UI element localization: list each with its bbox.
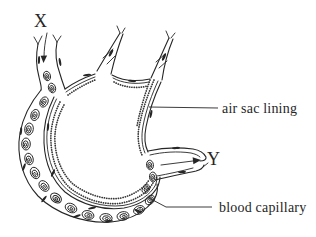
alveolus-diagram: X Y air sac lining blood capillary <box>0 0 316 237</box>
air-sac-lining-leader-line <box>149 107 218 108</box>
red-blood-cell <box>149 172 157 183</box>
x-marker-label: X <box>34 11 47 31</box>
red-blood-cell <box>28 166 41 181</box>
duct-stub-right <box>151 31 175 80</box>
blood-capillary-leader-line <box>149 198 212 207</box>
x-arrowhead-icon <box>41 55 48 63</box>
red-blood-cell <box>49 191 64 205</box>
red-blood-cell <box>146 160 154 170</box>
red-blood-cell <box>24 122 34 135</box>
red-blood-cell <box>22 138 31 150</box>
label-air-sac-lining: air sac lining <box>149 101 297 116</box>
red-blood-cell <box>42 70 51 81</box>
lining-stipple <box>51 80 154 204</box>
y-flow-arrow <box>161 161 193 165</box>
blood-capillary-label: blood capillary <box>219 200 306 215</box>
air-sac-lining-label: air sac lining <box>222 101 297 116</box>
x-annotation: X <box>34 11 47 63</box>
capillary-inlet-vessel <box>34 35 65 90</box>
capillary-outlet-tube <box>148 147 208 180</box>
red-blood-cell <box>38 95 50 108</box>
red-blood-cell <box>64 201 79 214</box>
capillary-outer-wall <box>19 90 158 222</box>
red-blood-cell <box>47 82 57 94</box>
lining-saddle-mid <box>112 75 150 80</box>
label-blood-capillary: blood capillary <box>149 198 306 215</box>
y-marker-label: Y <box>207 149 220 169</box>
duct-stub-middle <box>97 26 125 74</box>
air-sac-lining <box>44 73 161 209</box>
alveolar-duct-stubs <box>97 26 175 80</box>
red-blood-cell <box>29 108 40 121</box>
red-blood-cell <box>37 179 51 194</box>
x-pointer-arrow <box>44 33 47 57</box>
red-blood-cell <box>81 209 95 221</box>
figure-canvas: X Y air sac lining blood capillary <box>0 0 316 237</box>
red-blood-cell <box>143 193 156 206</box>
